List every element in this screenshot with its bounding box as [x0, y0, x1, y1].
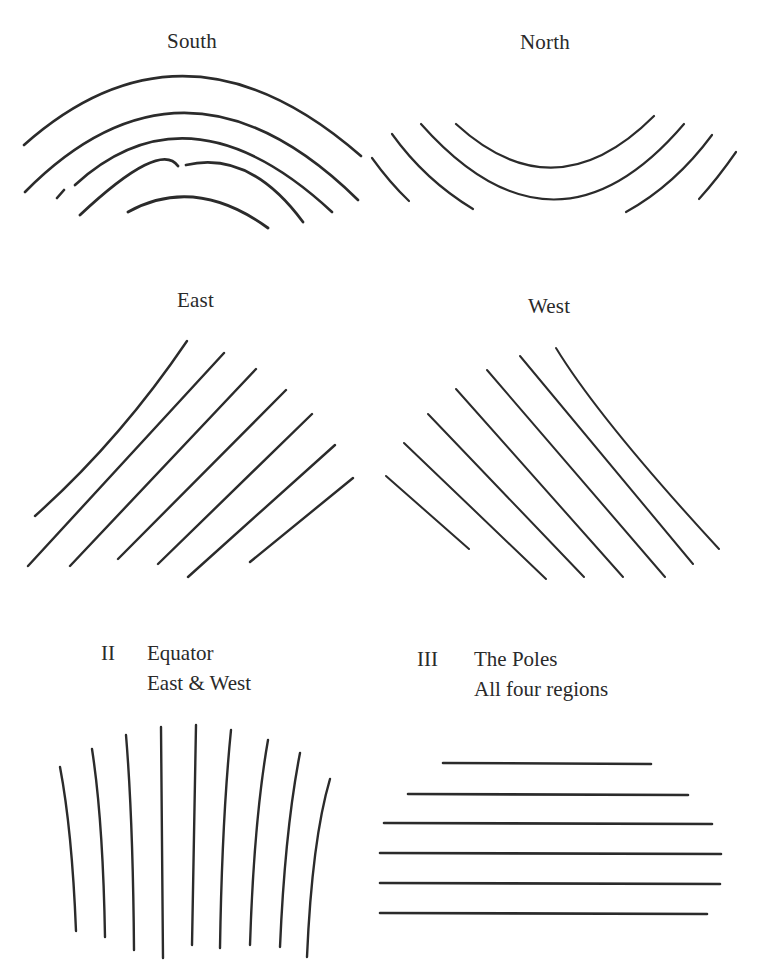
poles-lines-group — [380, 763, 721, 914]
equator-line — [161, 727, 163, 958]
east-line — [250, 478, 353, 562]
south-arc — [128, 197, 268, 228]
north-arc — [421, 124, 684, 200]
south-arc — [25, 113, 358, 200]
east-label: East — [177, 290, 214, 311]
east-line — [70, 369, 256, 566]
north-arc — [456, 116, 654, 168]
west-line — [386, 476, 469, 549]
equator-line — [192, 725, 196, 945]
equator-subtitle: East & West — [101, 668, 251, 698]
poles-caption-line-1: IIIThe Poles — [417, 644, 608, 674]
east-line — [28, 353, 224, 566]
poles-caption: IIIThe Poles All four regions — [417, 644, 608, 704]
north-arc — [372, 158, 409, 201]
poles-line — [443, 763, 651, 764]
west-line — [428, 414, 584, 577]
equator-line — [250, 740, 268, 945]
equator-line — [60, 767, 76, 931]
poles-line — [408, 794, 688, 795]
equator-line — [92, 749, 105, 937]
east-line — [35, 341, 187, 516]
west-lines-group — [386, 348, 719, 579]
equator-title: Equator — [147, 641, 213, 665]
poles-title: The Poles — [474, 647, 557, 671]
west-line — [556, 348, 719, 549]
equator-lines-group — [60, 725, 330, 958]
south-label: South — [167, 31, 217, 52]
east-lines-group — [28, 341, 353, 577]
south-arc — [57, 138, 332, 212]
diagram-canvas — [0, 0, 763, 978]
poles-subtitle: All four regions — [417, 674, 608, 704]
poles-line — [380, 883, 720, 884]
poles-line — [384, 823, 712, 824]
north-arc — [626, 135, 712, 212]
west-line — [456, 389, 623, 577]
equator-line — [220, 730, 231, 948]
equator-line — [126, 735, 134, 950]
west-label: West — [528, 296, 570, 317]
north-label: North — [520, 32, 570, 53]
equator-numeral: II — [101, 638, 147, 668]
north-arcs-group — [372, 116, 736, 212]
poles-numeral: III — [417, 644, 474, 674]
poles-line — [380, 853, 721, 854]
east-line — [158, 414, 312, 564]
equator-line — [307, 779, 330, 957]
north-arc — [699, 152, 736, 199]
equator-caption-line-1: IIEquator — [101, 638, 251, 668]
west-line — [487, 370, 665, 577]
south-arcs-group — [24, 76, 361, 228]
poles-line — [380, 913, 707, 914]
equator-caption: IIEquator East & West — [101, 638, 251, 698]
south-arc — [80, 159, 303, 222]
west-line — [520, 356, 693, 564]
east-line — [118, 390, 286, 559]
equator-line — [280, 753, 300, 947]
south-arc — [24, 76, 361, 156]
